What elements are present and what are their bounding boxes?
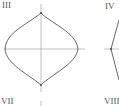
diagram-canvas bbox=[0, 0, 119, 106]
cusp-point-iv bbox=[110, 48, 112, 50]
curve-iv bbox=[111, 20, 119, 80]
cusp-point-top bbox=[40, 12, 42, 14]
cusp-point-bottom bbox=[40, 84, 42, 86]
